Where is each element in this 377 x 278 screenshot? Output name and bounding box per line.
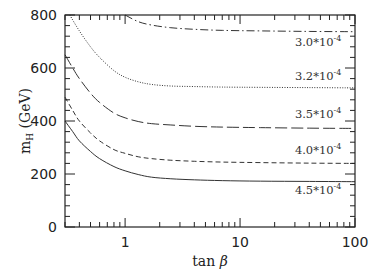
curve-labels-group: 3.0*10-43.2*10-43.5*10-44.0*10-44.5*10-4 [295, 34, 341, 197]
curve-label: 4.5*10-4 [295, 182, 341, 197]
curve-label: 3.0*10-4 [295, 34, 341, 49]
x-tick-label: 10 [231, 234, 249, 250]
y-tick-label: 600 [30, 60, 57, 76]
x-tick-label: 100 [342, 234, 369, 250]
y-axis-label: mH (GeV) [17, 88, 35, 154]
y-tick-label: 0 [48, 219, 57, 235]
curve-label: 3.5*10-4 [295, 106, 341, 121]
x-tick-label: 1 [121, 234, 130, 250]
y-tick-label: 200 [30, 166, 57, 182]
curve-label: 3.2*10-4 [295, 68, 341, 83]
chart: 1101000200400600800 3.0*10-43.2*10-43.5*… [0, 0, 377, 278]
y-tick-label: 400 [30, 113, 57, 129]
y-tick-label: 800 [30, 7, 57, 23]
curve-label: 4.0*10-4 [295, 142, 341, 157]
x-axis-label: tan β [192, 253, 228, 269]
